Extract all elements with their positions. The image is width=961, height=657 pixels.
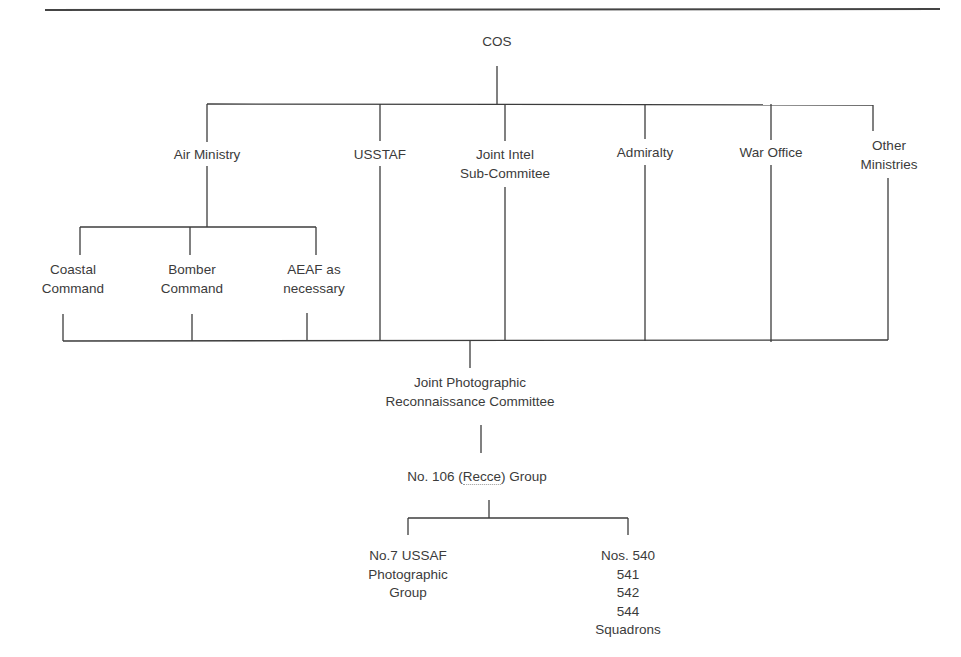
node-label: USSTAF — [354, 146, 406, 165]
node-label: COS — [482, 33, 511, 52]
node-label: necessary — [283, 280, 345, 299]
node-label: Bomber — [161, 261, 223, 280]
node-label: Other — [860, 137, 917, 156]
node-squadrons: Nos. 540 541 542 544 Squadrons — [595, 547, 660, 640]
org-chart: COS Air Ministry USSTAF Joint Intel Sub-… — [0, 0, 961, 657]
node-label: Group — [368, 584, 448, 603]
node-air-ministry: Air Ministry — [174, 146, 241, 165]
node-label: Admiralty — [617, 144, 673, 163]
node-label: Command — [161, 280, 223, 299]
node-no-106-group: No. 106 (Recce) Group — [407, 468, 547, 487]
node-label: War Office — [739, 144, 802, 163]
node-label: Joint Photographic — [386, 374, 555, 393]
node-label: Coastal — [42, 261, 104, 280]
node-label: No. 106 ( — [407, 469, 463, 484]
connector-lines — [0, 0, 961, 657]
node-label: 544 — [595, 603, 660, 622]
node-joint-intel: Joint Intel Sub-Commitee — [460, 146, 550, 183]
node-cos: COS — [482, 33, 511, 52]
node-label: Ministries — [860, 156, 917, 175]
node-label: Nos. 540 — [595, 547, 660, 566]
node-jprc: Joint Photographic Reconnaissance Commit… — [386, 374, 555, 411]
node-label-recce: Recce — [463, 469, 501, 485]
node-admiralty: Admiralty — [617, 144, 673, 163]
node-label: No.7 USSAF — [368, 547, 448, 566]
node-label: Reconnaissance Committee — [386, 393, 555, 412]
node-no7-usaaf: No.7 USSAF Photographic Group — [368, 547, 448, 603]
node-label: Photographic — [368, 566, 448, 585]
node-coastal-command: Coastal Command — [42, 261, 104, 298]
node-label: 542 — [595, 584, 660, 603]
node-label: Sub-Commitee — [460, 165, 550, 184]
node-aeaf: AEAF as necessary — [283, 261, 345, 298]
node-label: 541 — [595, 566, 660, 585]
node-label: Air Ministry — [174, 146, 241, 165]
node-label: Joint Intel — [460, 146, 550, 165]
node-war-office: War Office — [739, 144, 802, 163]
node-label: ) Group — [501, 469, 547, 484]
node-usstaf: USSTAF — [354, 146, 406, 165]
node-bomber-command: Bomber Command — [161, 261, 223, 298]
node-label: Command — [42, 280, 104, 299]
node-label: Squadrons — [595, 621, 660, 640]
node-label: AEAF as — [283, 261, 345, 280]
collector-bar — [63, 340, 888, 341]
node-other-ministries: Other Ministries — [860, 137, 917, 174]
level1-bar — [207, 104, 873, 105]
header-rule — [45, 9, 940, 10]
